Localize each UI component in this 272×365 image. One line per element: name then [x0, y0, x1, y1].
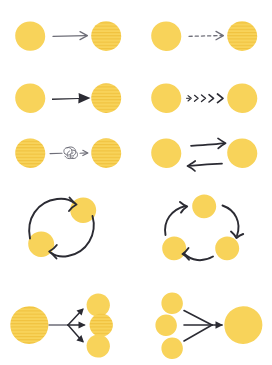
source-node-bottom — [161, 337, 183, 359]
target-node — [227, 21, 257, 51]
arrow-shaft — [53, 36, 86, 37]
target-node-middle — [90, 313, 113, 336]
source-node-middle — [155, 314, 177, 336]
cycle-node-top — [192, 194, 216, 218]
cycle-node-bottom-right — [215, 236, 239, 260]
target-node — [91, 21, 121, 51]
left-node — [151, 138, 181, 168]
target-node — [227, 83, 257, 113]
cycle-node-bottom-left — [162, 236, 186, 260]
source-node-top — [161, 292, 183, 314]
right-node — [227, 138, 257, 168]
source-node — [15, 138, 45, 168]
target-node-top — [87, 293, 110, 316]
source-node — [15, 83, 45, 113]
source-node — [15, 21, 45, 50]
target-node — [91, 83, 121, 113]
target-node-bottom — [87, 334, 110, 357]
target-node — [91, 138, 121, 168]
source-node — [151, 21, 181, 51]
target-node — [224, 306, 262, 344]
source-node — [10, 306, 48, 344]
diagram-canvas — [0, 0, 272, 365]
diagram-svg — [0, 0, 272, 365]
source-node — [151, 83, 181, 113]
